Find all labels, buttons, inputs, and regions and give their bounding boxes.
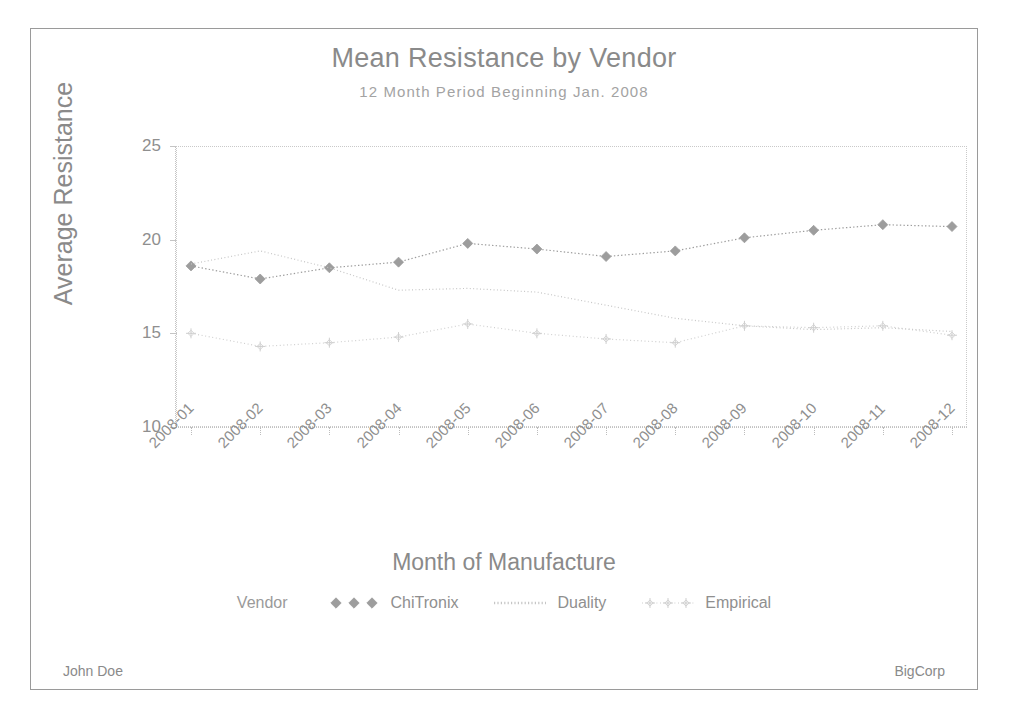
x-tick-mark <box>191 427 192 435</box>
series-marker-chitronix <box>670 246 680 256</box>
legend-label: ChiTronix <box>391 594 459 612</box>
series-marker-chitronix <box>255 274 265 284</box>
legend-item-duality[interactable]: Duality <box>492 594 606 612</box>
series-line-empirical <box>191 324 952 346</box>
x-tick-mark <box>744 427 745 435</box>
plot-area <box>176 146 967 427</box>
footer-company: BigCorp <box>894 663 945 679</box>
x-tick-mark <box>814 427 815 435</box>
series-marker-empirical <box>324 338 334 348</box>
x-tick-mark <box>675 427 676 435</box>
legend-label: Duality <box>557 594 606 612</box>
x-tick-mark <box>329 427 330 435</box>
legend-item-chitronix[interactable]: ChiTronix <box>326 594 459 612</box>
y-tick-label: 20 <box>121 230 161 250</box>
series-marker-empirical <box>670 338 680 348</box>
series-marker-empirical <box>532 328 542 338</box>
y-tick-label: 25 <box>121 136 161 156</box>
series-marker-chitronix <box>394 257 404 267</box>
footer-author: John Doe <box>63 663 123 679</box>
series-marker-empirical <box>601 334 611 344</box>
series-marker-chitronix <box>878 220 888 230</box>
series-marker-chitronix <box>809 225 819 235</box>
y-tick-label: 15 <box>121 323 161 343</box>
series-marker-empirical <box>739 321 749 331</box>
series-marker-chitronix <box>532 244 542 254</box>
legend-key-empirical <box>640 596 696 610</box>
series-lines <box>176 146 967 427</box>
series-marker-chitronix <box>947 222 957 232</box>
x-tick-mark <box>952 427 953 435</box>
series-marker-chitronix <box>324 263 334 273</box>
x-tick-mark <box>260 427 261 435</box>
x-tick-mark <box>606 427 607 435</box>
series-marker-chitronix <box>601 252 611 262</box>
series-marker-empirical <box>809 323 819 333</box>
report-frame: Mean Resistance by Vendor 12 Month Perio… <box>30 28 978 690</box>
series-marker-chitronix <box>739 233 749 243</box>
series-line-duality <box>191 251 952 332</box>
legend-title: Vendor <box>237 594 288 612</box>
chart-legend: Vendor ChiTronixDualityEmpirical <box>31 594 977 612</box>
series-marker-empirical <box>186 328 196 338</box>
legend-item-empirical[interactable]: Empirical <box>640 594 771 612</box>
x-tick-mark <box>537 427 538 435</box>
series-marker-empirical <box>255 341 265 351</box>
series-marker-empirical <box>394 332 404 342</box>
legend-key-duality <box>492 596 548 610</box>
chart-title: Mean Resistance by Vendor <box>31 43 977 74</box>
y-axis-title: Average Resistance <box>49 0 78 394</box>
series-marker-chitronix <box>463 238 473 248</box>
series-marker-chitronix <box>186 261 196 271</box>
series-marker-empirical <box>463 319 473 329</box>
x-tick-mark <box>468 427 469 435</box>
legend-key-chitronix <box>326 596 382 610</box>
series-marker-empirical <box>878 321 888 331</box>
chart-subtitle: 12 Month Period Beginning Jan. 2008 <box>31 83 977 100</box>
x-tick-mark <box>399 427 400 435</box>
x-tick-mark <box>883 427 884 435</box>
x-axis-title: Month of Manufacture <box>31 549 977 576</box>
series-marker-empirical <box>947 330 957 340</box>
legend-label: Empirical <box>705 594 771 612</box>
series-line-chitronix <box>191 225 952 279</box>
